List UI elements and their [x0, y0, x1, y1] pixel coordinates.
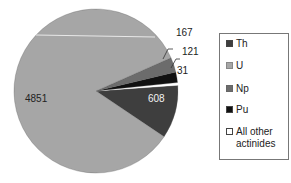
label-np: 167 — [176, 28, 193, 38]
legend-swatch-other — [226, 128, 233, 135]
legend-label-np: Np — [236, 83, 249, 95]
legend: Th U Np Pu All other actinides — [219, 33, 289, 160]
label-th: 608 — [148, 94, 165, 104]
pie-slices — [14, 9, 178, 173]
legend-label-other: All other actinides — [236, 126, 275, 150]
legend-label-th: Th — [236, 38, 248, 50]
legend-swatch-np — [226, 85, 233, 92]
legend-label-pu: Pu — [236, 104, 248, 116]
legend-swatch-th — [226, 40, 233, 47]
legend-label-u: U — [236, 60, 243, 72]
legend-item-th: Th — [226, 38, 248, 50]
legend-swatch-u — [226, 62, 233, 69]
label-other: 31 — [177, 66, 188, 76]
legend-item-np: Np — [226, 83, 249, 95]
legend-item-u: U — [226, 60, 243, 72]
legend-item-pu: Pu — [226, 104, 248, 116]
legend-swatch-pu — [226, 106, 233, 113]
label-u: 4851 — [25, 94, 47, 104]
legend-item-other: All other actinides — [226, 126, 275, 150]
label-pu: 121 — [182, 47, 199, 57]
